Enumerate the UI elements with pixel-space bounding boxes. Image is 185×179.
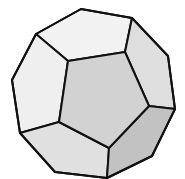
- dodecahedron-figure: [0, 0, 185, 179]
